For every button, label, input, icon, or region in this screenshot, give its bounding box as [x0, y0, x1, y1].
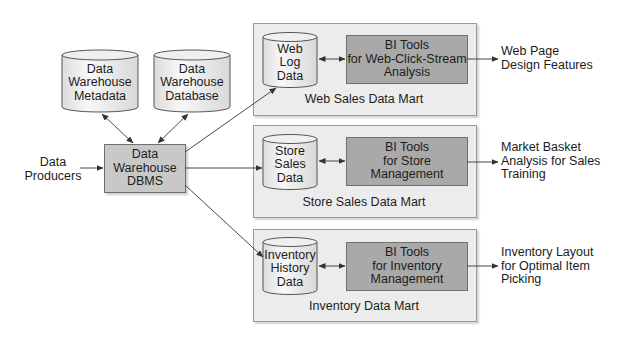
- database-dbms-arrow: [158, 114, 188, 143]
- web-log-label: Web Log Data: [263, 42, 317, 84]
- metadata-label: Data Warehouse Metadata: [62, 62, 138, 104]
- web-sales-mart-title: Web Sales Data Mart: [253, 92, 475, 106]
- metadata-dbms-arrow: [102, 114, 133, 143]
- store-sales-label: Store Sales Data: [263, 144, 317, 186]
- inventory-history-label: Inventory History Data: [261, 248, 319, 290]
- web-output-label: Web Page Design Features: [501, 45, 593, 72]
- data-producers-label: Data Producers: [20, 156, 86, 183]
- store-sales-mart-title: Store Sales Data Mart: [253, 195, 475, 209]
- database-label: Data Warehouse Database: [154, 62, 230, 104]
- inventory-mart-title: Inventory Data Mart: [253, 299, 475, 313]
- store-output-label: Market Basket Analysis for Sales Trainin…: [501, 141, 600, 182]
- inventory-output-label: Inventory Layout for Optimal Item Pickin…: [501, 246, 593, 287]
- dbms-inventory-arrow: [185, 185, 263, 257]
